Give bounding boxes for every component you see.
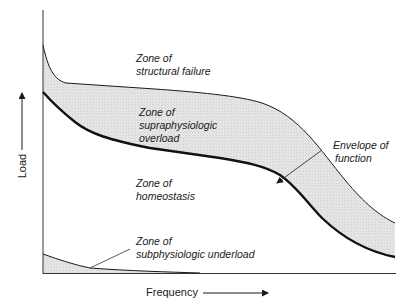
zone-structural-line2: structural failure bbox=[136, 65, 211, 78]
subphysiologic-leader bbox=[90, 249, 130, 268]
zone-subphysiologic-line2: subphysiologic underload bbox=[136, 248, 255, 261]
y-axis-label: Load bbox=[16, 152, 28, 180]
envelope-line2: function bbox=[333, 152, 388, 165]
zone-supraphysiologic-line1: Zone of bbox=[139, 106, 217, 119]
zone-supraphysiologic-line2: supraphysiologic bbox=[139, 119, 217, 132]
envelope-of-function-label: Envelope of function bbox=[333, 139, 388, 165]
zone-homeostasis-line1: Zone of bbox=[136, 177, 195, 190]
zone-structural-line1: Zone of bbox=[136, 52, 211, 65]
zone-subphysiologic-label: Zone of subphysiologic underload bbox=[136, 235, 255, 261]
x-axis-label: Frequency bbox=[146, 286, 198, 298]
zone-supraphysiologic-label: Zone of supraphysiologic overload bbox=[139, 106, 217, 145]
zone-homeostasis-label: Zone of homeostasis bbox=[136, 177, 195, 203]
zone-subphysiologic-line1: Zone of bbox=[136, 235, 255, 248]
envelope-line1: Envelope of bbox=[333, 139, 388, 152]
zone-homeostasis-line2: homeostasis bbox=[136, 190, 195, 203]
zone-structural-label: Zone of structural failure bbox=[136, 52, 211, 78]
zone-supraphysiologic-line3: overload bbox=[139, 132, 217, 145]
